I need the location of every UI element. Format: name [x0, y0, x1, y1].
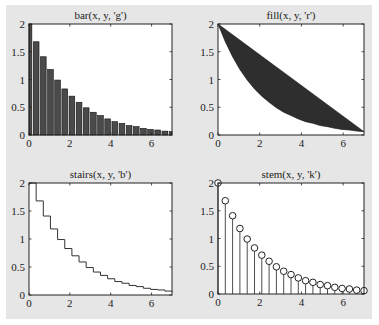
stem-marker: [332, 284, 339, 291]
stairs-chart: 024600.511.52stairs(x, y, 'b'): [11, 168, 172, 309]
x-tick-label: 6: [149, 137, 155, 149]
bar: [83, 108, 89, 135]
stem-marker: [222, 197, 229, 204]
y-tick-label: 1.5: [200, 46, 214, 58]
stem-chart: 024600.511.52stem(x, y, 'k'): [200, 168, 367, 308]
y-tick-label: 1.5: [11, 205, 25, 217]
y-tick-label: 1: [20, 74, 26, 86]
bar: [133, 127, 139, 135]
bar: [76, 102, 82, 135]
y-tick-label: 1: [209, 233, 215, 245]
stem-marker: [229, 212, 236, 219]
stem-marker: [244, 236, 251, 243]
bar: [148, 129, 154, 135]
x-tick-label: 4: [108, 297, 114, 309]
bar: [126, 126, 132, 135]
x-tick-label: 0: [26, 297, 32, 309]
stem-marker: [259, 252, 266, 259]
y-tick-label: 2: [209, 18, 215, 30]
stem-marker: [339, 285, 346, 292]
x-tick-label: 6: [340, 137, 346, 149]
y-tick-label: 0: [20, 289, 26, 301]
bar: [155, 130, 161, 135]
stem-marker: [273, 264, 280, 271]
x-tick-label: 2: [67, 137, 73, 149]
y-tick-label: 2: [20, 177, 26, 189]
x-tick-label: 4: [299, 296, 305, 308]
stem-marker: [251, 245, 258, 252]
stem-marker: [295, 275, 302, 282]
bar: [33, 42, 39, 135]
y-tick-label: 2: [20, 18, 26, 30]
bar: [105, 119, 111, 135]
stem-marker: [288, 271, 295, 278]
bar: [48, 70, 54, 135]
bar: [141, 128, 147, 135]
y-tick-label: 1: [209, 74, 215, 86]
chart-title: fill(x, y, 'r'): [266, 9, 315, 22]
stem-marker: [237, 225, 244, 232]
chart-title: stem(x, y, 'k'): [262, 168, 321, 181]
chart-title: bar(x, y, 'g'): [74, 9, 126, 22]
bar-chart: 024600.511.52bar(x, y, 'g'): [11, 9, 172, 149]
stem-marker: [353, 287, 360, 294]
x-tick-label: 4: [299, 137, 305, 149]
x-tick-label: 2: [67, 297, 73, 309]
x-tick-label: 2: [257, 137, 263, 149]
y-tick-label: 0: [20, 129, 26, 141]
x-tick-label: 6: [340, 296, 346, 308]
bar: [40, 57, 46, 135]
chart-title: stairs(x, y, 'b'): [70, 168, 132, 181]
stem-marker: [324, 282, 331, 289]
bar: [112, 122, 118, 135]
x-tick-label: 4: [108, 137, 114, 149]
bar: [119, 123, 125, 135]
bar: [69, 96, 75, 135]
bar: [90, 112, 96, 135]
y-tick-label: 0.5: [11, 101, 25, 113]
stem-marker: [280, 268, 287, 275]
y-tick-label: 1.5: [11, 46, 25, 58]
y-tick-label: 0: [209, 129, 215, 141]
x-tick-label: 2: [257, 296, 263, 308]
bar: [162, 131, 168, 135]
stem-marker: [317, 281, 324, 288]
x-tick-label: 6: [149, 297, 155, 309]
y-tick-label: 1: [20, 233, 26, 245]
plot-area: [29, 183, 172, 295]
stem-marker: [346, 286, 353, 293]
y-tick-label: 0: [209, 288, 215, 300]
y-tick-label: 0.5: [200, 260, 214, 272]
y-tick-label: 0.5: [200, 101, 214, 113]
stem-marker: [302, 277, 309, 284]
y-tick-label: 1.5: [200, 205, 214, 217]
bar: [62, 89, 68, 135]
fill-chart: 024600.511.52fill(x, y, 'r'): [200, 9, 364, 149]
bar: [55, 80, 61, 135]
y-tick-label: 0.5: [11, 261, 25, 273]
bar: [98, 116, 104, 135]
stem-marker: [266, 258, 273, 265]
x-tick-label: 0: [215, 296, 221, 308]
x-tick-label: 0: [215, 137, 221, 149]
figure-canvas: 024600.511.52bar(x, y, 'g')024600.511.52…: [0, 0, 379, 325]
y-tick-label: 2: [209, 177, 215, 189]
stem-marker: [310, 279, 317, 286]
x-tick-label: 0: [26, 137, 32, 149]
